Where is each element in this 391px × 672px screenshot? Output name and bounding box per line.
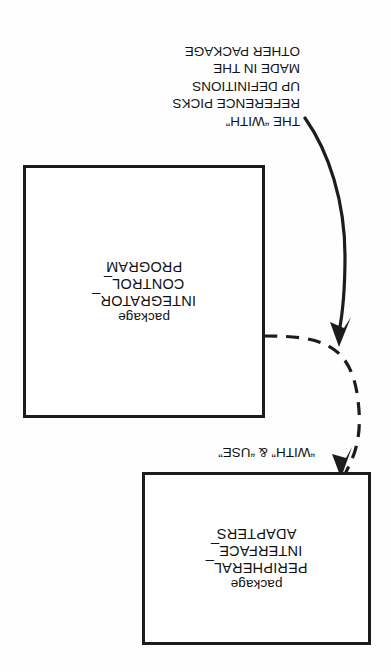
package-name-line-3: ADAPTERS	[205, 525, 307, 542]
annotation-line-3: UP DEFINITIONS	[110, 77, 300, 95]
package-box-peripheral-interface-adapters[interactable]: package PERIPHERAL_ INTERFACE_ ADAPTERS	[142, 472, 371, 645]
package-box-label: package INTEGRATOR_ CONTROL_ PROGRAM	[92, 258, 196, 324]
edge-label-with-use: “WITH” & “USE”	[218, 445, 315, 460]
package-box-integrator-control-program[interactable]: package INTEGRATOR_ CONTROL_ PROGRAM	[23, 165, 265, 418]
package-box-label: package PERIPHERAL_ INTERFACE_ ADAPTERS	[205, 525, 307, 591]
package-keyword: package	[205, 576, 307, 592]
package-name-line-3: PROGRAM	[92, 258, 196, 275]
package-name-line-2: INTERFACE_	[205, 542, 307, 559]
package-name-line-1: PERIPHERAL_	[205, 559, 307, 576]
annotation-line-5: OTHER PACKAGE	[110, 42, 300, 60]
annotation-line-2: REFERENCE PICKS	[110, 95, 300, 113]
annotation-line-4: MADE IN THE	[110, 60, 300, 78]
package-name-line-1: INTEGRATOR_	[92, 292, 196, 309]
package-keyword: package	[92, 309, 196, 325]
annotation-note: THE “WITH” REFERENCE PICKS UP DEFINITION…	[110, 42, 300, 130]
scanned-diagram-canvas: package INTEGRATOR_ CONTROL_ PROGRAM pac…	[0, 0, 391, 672]
annotation-pointer-curve	[305, 118, 345, 332]
annotation-line-1: THE “WITH”	[110, 112, 300, 130]
diagram-layer: package INTEGRATOR_ CONTROL_ PROGRAM pac…	[0, 0, 391, 672]
package-name-line-2: CONTROL_	[92, 275, 196, 292]
